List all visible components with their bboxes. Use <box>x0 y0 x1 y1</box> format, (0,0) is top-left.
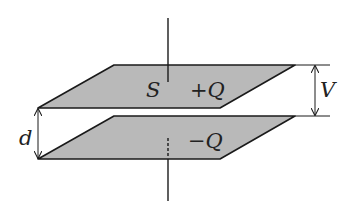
top-plate <box>38 65 295 108</box>
bottom-plate <box>38 116 295 159</box>
area-label: S <box>146 78 160 102</box>
capacitor-diagram: S +Q −Q V d <box>0 0 358 215</box>
bottom-charge-label: −Q <box>188 129 223 153</box>
voltage-label: V <box>320 78 337 102</box>
diagram-canvas: S +Q −Q V d <box>0 0 358 215</box>
separation-label: d <box>19 126 32 150</box>
top-charge-label: +Q <box>190 78 225 102</box>
